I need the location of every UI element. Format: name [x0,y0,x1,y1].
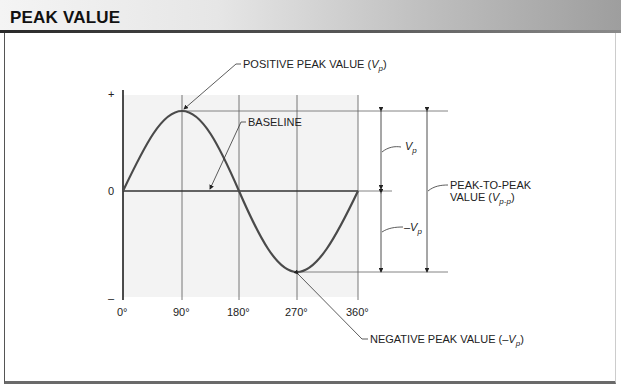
positive-peak-label: POSITIVE PEAK VALUE (Vp) [243,58,387,73]
y-minus-label: – [108,292,115,304]
vp-bottom-leader [382,227,403,232]
peak-to-peak-label-line2: VALUE (Vp-p) [450,191,515,206]
negative-peak-label: NEGATIVE PEAK VALUE (–Vp) [370,333,524,348]
x-tick-270: 270° [285,306,308,318]
y-zero-label: 0 [108,185,114,197]
x-tick-90: 90° [173,306,190,318]
y-plus-label: + [108,88,114,100]
vp-top-leader [382,147,401,152]
vp-top-label: Vp [405,140,417,155]
sine-wave-diagram: + 0 – 0° 90° 180° 270° 360° POSITIVE PEA… [0,0,621,391]
baseline-label: BASELINE [248,116,302,128]
x-tick-0: 0° [117,306,128,318]
vp-bottom-label: –Vp [403,221,422,236]
peak-to-peak-label-line1: PEAK-TO-PEAK [450,179,532,191]
x-tick-180: 180° [227,306,250,318]
x-tick-360: 360° [346,306,369,318]
peak-to-peak-leader [428,185,448,191]
